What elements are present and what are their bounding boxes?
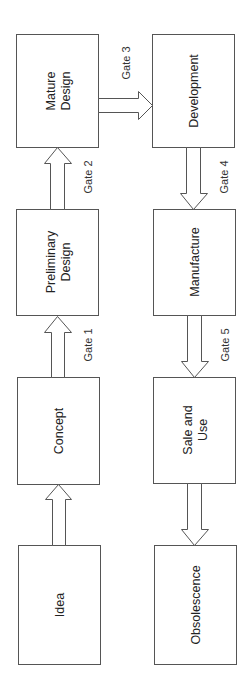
arrow-concept-to-preliminary <box>45 317 72 378</box>
stage-label-manufacture: Manufacture <box>188 227 202 297</box>
svg-text:Use: Use <box>196 419 210 441</box>
svg-text:Concept: Concept <box>52 407 66 454</box>
svg-text:Gate 4: Gate 4 <box>218 160 230 193</box>
stage-label-obsolescence: Obsolescence <box>189 565 203 644</box>
arrow-manufacture-to-sale <box>182 316 209 378</box>
gate-label-5: Gate 5 <box>219 328 231 361</box>
stage-label-development: Development <box>187 54 201 128</box>
svg-text:Obsolescence: Obsolescence <box>189 565 203 644</box>
gate-label-4: Gate 4 <box>218 160 230 193</box>
gate-label-1: Gate 1 <box>82 328 94 361</box>
svg-text:Development: Development <box>187 54 201 128</box>
arrow-mature-to-development <box>99 92 153 120</box>
svg-text:Manufacture: Manufacture <box>188 227 202 297</box>
arrow-idea-to-concept <box>46 485 72 546</box>
svg-text:Gate 1: Gate 1 <box>82 328 94 361</box>
arrow-development-to-manufacture <box>181 148 208 210</box>
gate-label-2: Gate 2 <box>82 160 94 193</box>
svg-text:Mature: Mature <box>44 72 58 111</box>
arrow-sale-to-obsolescence <box>182 484 209 546</box>
stage-label-concept: Concept <box>52 407 66 454</box>
svg-text:Gate 3: Gate 3 <box>120 46 132 79</box>
lifecycle-diagram: Mature Design Development Preliminary De… <box>0 0 252 690</box>
svg-text:Design: Design <box>59 72 73 111</box>
gate-label-3: Gate 3 <box>120 46 132 79</box>
stage-label-idea: Idea <box>53 593 67 617</box>
svg-text:Design: Design <box>59 243 73 282</box>
stage-label-mature-design: Mature Design <box>44 72 73 111</box>
svg-text:Sale and: Sale and <box>181 405 195 454</box>
svg-text:Idea: Idea <box>53 593 67 617</box>
svg-text:Preliminary: Preliminary <box>44 230 58 293</box>
svg-text:Gate 2: Gate 2 <box>82 160 94 193</box>
svg-text:Gate 5: Gate 5 <box>219 328 231 361</box>
arrow-preliminary-to-mature <box>45 148 72 210</box>
